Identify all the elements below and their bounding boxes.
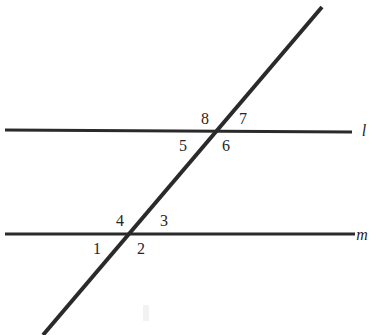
angle-label-6: 6: [222, 137, 230, 154]
line-label-l: l: [362, 122, 367, 139]
line-label-m: m: [356, 226, 368, 243]
angle-label-7: 7: [239, 110, 247, 127]
geometry-figure: l m 1 2 3 4 5 6 7 8: [0, 0, 382, 335]
angle-label-4: 4: [116, 212, 124, 229]
angle-label-2: 2: [137, 240, 145, 257]
angle-label-8: 8: [201, 110, 209, 127]
angle-label-5: 5: [179, 137, 187, 154]
figure-background: [0, 0, 382, 335]
diagram-canvas: l m 1 2 3 4 5 6 7 8: [0, 0, 382, 335]
scan-smudge-artifact: [143, 305, 149, 321]
angle-label-1: 1: [93, 240, 101, 257]
angle-label-3: 3: [160, 212, 168, 229]
line-l: [5, 130, 352, 132]
